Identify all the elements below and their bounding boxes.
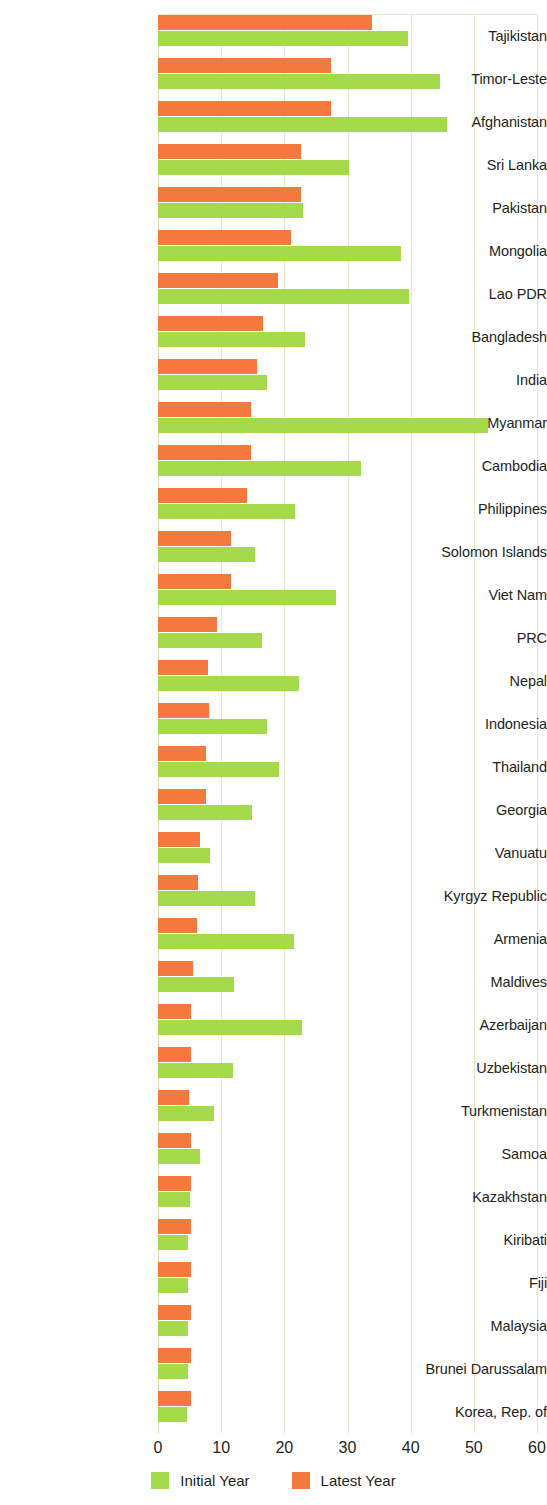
bar-initial-year <box>158 633 262 648</box>
category-label: Kiribati <box>399 1232 547 1248</box>
bar-latest-year <box>158 789 206 804</box>
bar-initial-year <box>158 1106 214 1121</box>
category-label: Myanmar <box>399 415 547 431</box>
category-label: Timor-Leste <box>399 71 547 87</box>
category-label: Mongolia <box>399 243 547 259</box>
bar-initial-year <box>158 848 210 863</box>
category-label: Uzbekistan <box>399 1060 547 1076</box>
category-label: Armenia <box>399 931 547 947</box>
bar-initial-year <box>158 375 267 390</box>
bar-initial-year <box>158 1063 233 1078</box>
bar-initial-year <box>158 676 299 691</box>
bar-latest-year <box>158 488 247 503</box>
bar-initial-year <box>158 977 234 992</box>
x-tick-label-30: 30 <box>339 1438 357 1458</box>
x-tick-label-60: 60 <box>528 1438 546 1458</box>
bar-initial-year <box>158 461 361 476</box>
legend-label: Latest Year <box>321 1472 396 1489</box>
bar-latest-year <box>158 316 263 331</box>
bar-latest-year <box>158 660 208 675</box>
legend-item[interactable]: Latest Year <box>292 1472 396 1489</box>
category-label: Lao PDR <box>399 286 547 302</box>
category-label: Afghanistan <box>399 114 547 130</box>
category-label: Kazakhstan <box>399 1189 547 1205</box>
bar-latest-year <box>158 1047 191 1062</box>
bar-latest-year <box>158 1391 191 1406</box>
bar-latest-year <box>158 703 209 718</box>
x-tick-label-50: 50 <box>465 1438 483 1458</box>
category-label: Philippines <box>399 501 547 517</box>
category-label: Turkmenistan <box>399 1103 547 1119</box>
category-label: Korea, Rep. of <box>399 1404 547 1420</box>
bar-initial-year <box>158 891 255 906</box>
category-label: Thailand <box>399 759 547 775</box>
bar-initial-year <box>158 805 252 820</box>
legend-label: Initial Year <box>180 1472 249 1489</box>
bar-latest-year <box>158 832 200 847</box>
bar-latest-year <box>158 359 257 374</box>
category-label: PRC <box>399 630 547 646</box>
bar-latest-year <box>158 402 251 417</box>
bar-latest-year <box>158 1262 191 1277</box>
bar-initial-year <box>158 547 255 562</box>
category-label: Azerbaijan <box>399 1017 547 1033</box>
category-label: Nepal <box>399 673 547 689</box>
bar-initial-year <box>158 762 279 777</box>
x-tick-label-20: 20 <box>275 1438 293 1458</box>
category-label: Kyrgyz Republic <box>399 888 547 904</box>
legend-item[interactable]: Initial Year <box>151 1472 249 1489</box>
category-label: Sri Lanka <box>399 157 547 173</box>
category-label: Bangladesh <box>399 329 547 345</box>
bar-latest-year <box>158 918 197 933</box>
bar-initial-year <box>158 203 303 218</box>
horizontal-bar-chart: TajikistanTimor-LesteAfghanistanSri Lank… <box>0 0 547 1505</box>
bar-latest-year <box>158 1133 191 1148</box>
bar-latest-year <box>158 574 231 589</box>
x-tick-label-10: 10 <box>212 1438 230 1458</box>
bar-latest-year <box>158 617 217 632</box>
category-label: Georgia <box>399 802 547 818</box>
category-label: India <box>399 372 547 388</box>
bar-latest-year <box>158 187 301 202</box>
category-label: Indonesia <box>399 716 547 732</box>
category-label: Pakistan <box>399 200 547 216</box>
bar-initial-year <box>158 719 267 734</box>
bar-initial-year <box>158 1407 187 1422</box>
category-label: Cambodia <box>399 458 547 474</box>
legend-swatch-icon <box>292 1472 310 1489</box>
bar-initial-year <box>158 504 295 519</box>
bar-latest-year <box>158 58 331 73</box>
bar-initial-year <box>158 1321 188 1336</box>
category-label: Brunei Darussalam <box>399 1361 547 1377</box>
bar-latest-year <box>158 101 331 116</box>
x-tick-label-0: 0 <box>154 1438 163 1458</box>
bar-initial-year <box>158 332 305 347</box>
bar-latest-year <box>158 273 278 288</box>
bar-latest-year <box>158 1348 191 1363</box>
bar-initial-year <box>158 1235 188 1250</box>
bar-initial-year <box>158 74 440 89</box>
chart-legend: Initial YearLatest Year <box>0 1472 547 1489</box>
bar-initial-year <box>158 31 408 46</box>
bar-latest-year <box>158 875 198 890</box>
bar-latest-year <box>158 445 251 460</box>
bar-initial-year <box>158 1192 190 1207</box>
category-label: Samoa <box>399 1146 547 1162</box>
bar-latest-year <box>158 15 372 30</box>
category-label: Fiji <box>399 1275 547 1291</box>
category-label: Viet Nam <box>399 587 547 603</box>
bar-latest-year <box>158 1219 191 1234</box>
legend-swatch-icon <box>151 1472 169 1489</box>
bar-initial-year <box>158 289 409 304</box>
bar-initial-year <box>158 1020 302 1035</box>
bar-initial-year <box>158 590 336 605</box>
x-tick-label-40: 40 <box>402 1438 420 1458</box>
x-axis-tick-labels: 0102030405060 <box>158 1438 537 1462</box>
bar-initial-year <box>158 160 349 175</box>
bar-latest-year <box>158 144 301 159</box>
bar-latest-year <box>158 1305 191 1320</box>
bar-initial-year <box>158 1278 188 1293</box>
category-label: Malaysia <box>399 1318 547 1334</box>
category-label: Vanuatu <box>399 845 547 861</box>
bar-latest-year <box>158 1004 191 1019</box>
